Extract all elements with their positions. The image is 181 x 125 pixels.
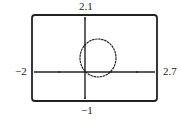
plot-area: [0, 0, 181, 125]
viewing-window-frame: [32, 15, 157, 101]
